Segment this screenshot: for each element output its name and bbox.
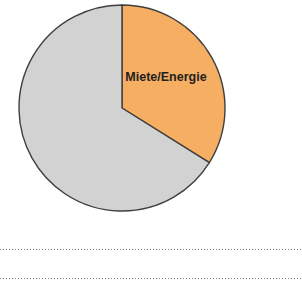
pie-chart-svg: Miete/Energie: [0, 0, 302, 230]
pie-slice-label-miete-energie: Miete/Energie: [125, 70, 206, 84]
dotted-rule-top: [0, 249, 302, 250]
pie-chart: Miete/Energie: [0, 0, 302, 230]
dotted-rule-bottom: [0, 278, 302, 279]
